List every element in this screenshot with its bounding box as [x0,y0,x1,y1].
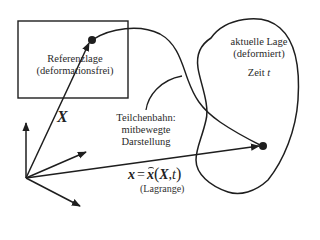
time-label: Zeit t [226,67,292,79]
mapping-function: x [147,167,154,183]
lagrange-formula: x=x(X,t) [128,165,181,183]
current-particle [259,142,267,150]
reference-label-line2: (deformationsfrei) [24,65,126,77]
path-label-line1: Teilchenbahn: [112,112,180,124]
trajectory-leader-line [146,76,182,110]
reference-configuration-label: Referenzlage (deformationsfrei) [24,53,126,77]
position-vector-label: X [57,108,68,126]
current-configuration-label: aktuelle Lage (deformiert) Zeit t [226,36,292,79]
coordinate-axes [26,123,86,206]
reference-label-line1: Referenzlage [24,53,126,65]
reference-particle [88,36,96,44]
path-label-line2: mitbewegte [112,124,180,136]
current-label-line1: aktuelle Lage [226,36,292,48]
current-label-line2: (deformiert) [226,48,292,60]
lagrange-label: (Lagrange) [140,183,184,194]
particle-path-label: Teilchenbahn: mitbewegte Darstellung [112,112,180,148]
path-label-line3: Darstellung [112,136,180,148]
